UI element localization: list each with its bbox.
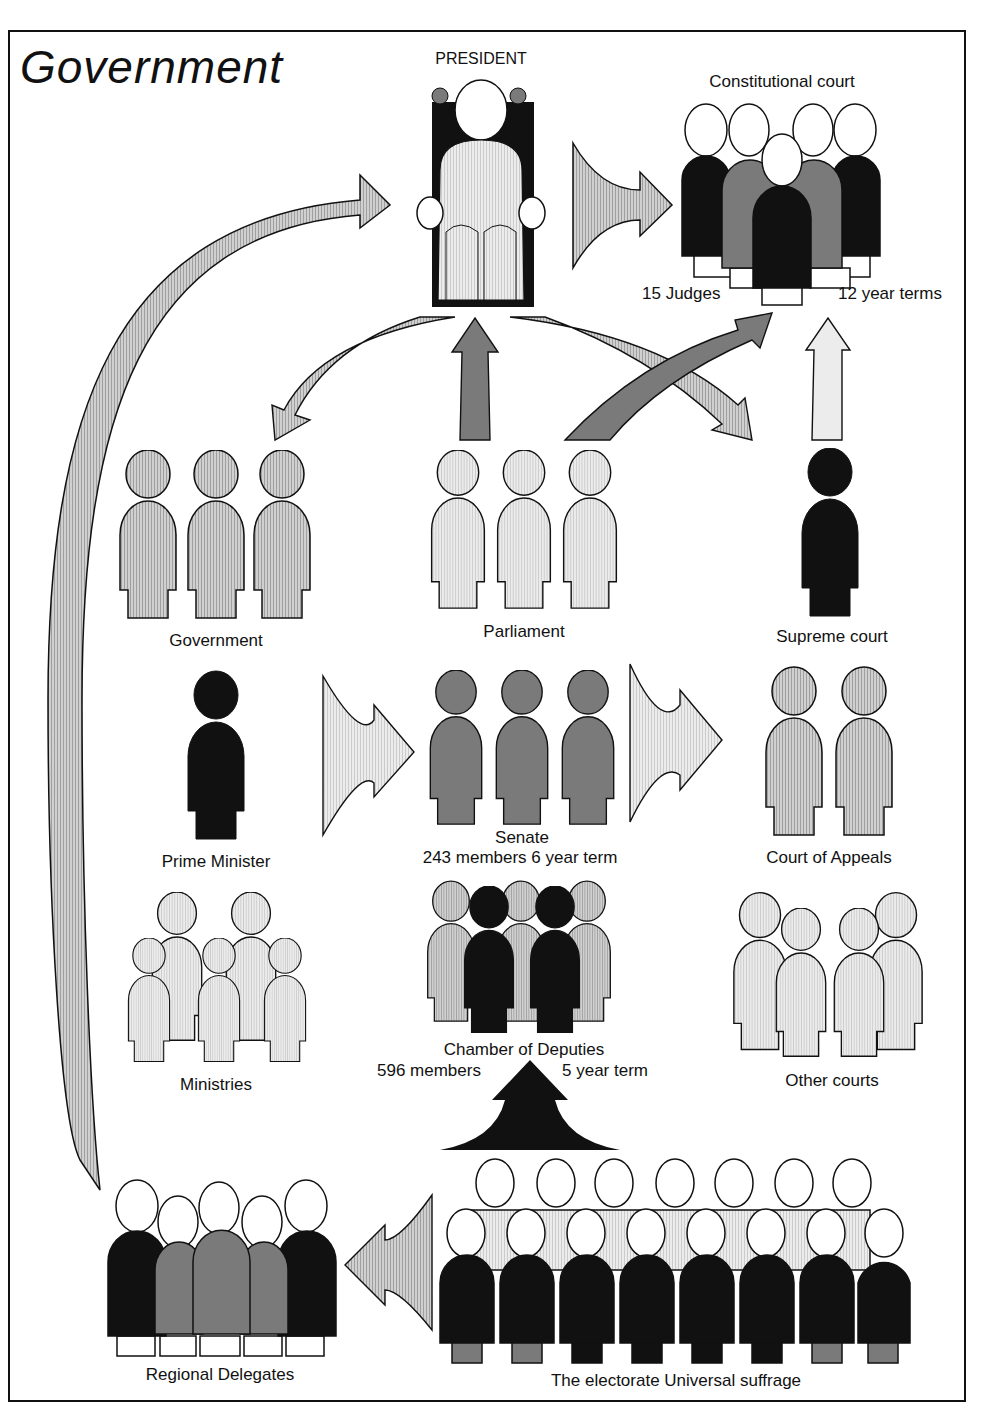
arrow-senate-to-court-of-appeals bbox=[630, 664, 722, 822]
senate-label: Senate bbox=[495, 828, 549, 848]
regional-delegates-label: Regional Delegates bbox=[146, 1365, 294, 1385]
arrow-supreme-court-to-constitutional-court bbox=[806, 318, 850, 440]
senate-figure bbox=[430, 670, 613, 824]
court-of-appeals-figure bbox=[766, 667, 892, 835]
parliament-figure bbox=[432, 450, 617, 608]
arrow-president-to-government bbox=[272, 317, 455, 440]
constitutional-court-judges: 15 Judges bbox=[642, 284, 720, 304]
constitutional-court-label: Constitutional court bbox=[709, 72, 855, 92]
electorate-figure bbox=[440, 1159, 910, 1363]
regional-delegates-figure bbox=[108, 1180, 336, 1356]
ministries-label: Ministries bbox=[180, 1075, 252, 1095]
arrow-parliament-to-president bbox=[452, 318, 498, 440]
constitutional-court-terms: 12 year terms bbox=[838, 284, 942, 304]
chamber-term: 5 year term bbox=[562, 1061, 648, 1081]
arrow-president-to-constitutional-court bbox=[573, 143, 672, 268]
president-label: PRESIDENT bbox=[435, 50, 527, 68]
arrow-president-to-supreme-court bbox=[510, 317, 752, 440]
constitutional-court-figure bbox=[682, 104, 880, 305]
electorate-label: The electorate Universal suffrage bbox=[551, 1371, 801, 1391]
ministries-figure bbox=[128, 892, 305, 1062]
other-courts-label: Other courts bbox=[785, 1071, 879, 1091]
diagram-artwork bbox=[0, 0, 984, 1415]
chamber-members: 596 members bbox=[377, 1061, 481, 1081]
prime-minister-figure bbox=[188, 671, 244, 839]
chamber-of-deputies-figure bbox=[428, 881, 611, 1032]
senate-detail: 243 members 6 year term bbox=[423, 848, 618, 868]
parliament-label: Parliament bbox=[483, 622, 564, 642]
arrow-prime-minister-to-senate bbox=[323, 676, 414, 835]
government-figure bbox=[120, 450, 310, 618]
prime-minister-label: Prime Minister bbox=[162, 852, 271, 872]
other-courts-figure bbox=[734, 893, 922, 1057]
government-label: Government bbox=[169, 631, 263, 651]
arrow-electorate-to-delegates bbox=[345, 1195, 432, 1330]
chamber-of-deputies-label: Chamber of Deputies bbox=[444, 1040, 605, 1060]
supreme-court-label: Supreme court bbox=[776, 627, 888, 647]
supreme-court-figure bbox=[802, 448, 858, 616]
president-figure bbox=[417, 80, 545, 307]
court-of-appeals-label: Court of Appeals bbox=[766, 848, 892, 868]
